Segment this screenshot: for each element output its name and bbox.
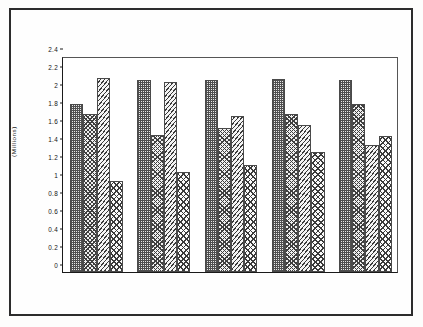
y-axis-tick: 1.2 [48,154,63,161]
plot-area: 00.20.40.60.811.21.41.61.822.22.4 [62,57,398,273]
bar [205,80,218,272]
bar [231,116,244,272]
bar-chart-figure: (Millions) 00.20.40.60.811.21.41.61.822.… [0,0,423,327]
y-axis-tick-label: 2.4 [48,46,60,53]
bar [218,128,231,272]
y-axis-tick: 2.4 [48,46,63,53]
y-axis-tick-mark [60,49,63,50]
bar [365,145,378,272]
y-axis-title: (Millions) [10,107,17,177]
y-axis-tick: 2.2 [48,64,63,71]
bar [177,172,190,272]
y-axis-tick: 1.4 [48,136,63,143]
y-axis-tick-mark [60,67,63,68]
y-axis-tick-label: 1.6 [48,118,60,125]
y-axis-tick-mark [60,229,63,230]
y-axis-tick-label: 0.8 [48,190,60,197]
y-axis-tick-mark [60,139,63,140]
y-axis-tick-mark [60,175,63,176]
bar [97,78,110,272]
y-axis-tick-mark [60,121,63,122]
bar [244,165,257,272]
bar [70,104,83,272]
bar [339,80,352,272]
y-axis-tick-label: 1.4 [48,136,60,143]
y-axis-tick-label: 1.8 [48,100,60,107]
bar [164,82,177,272]
y-axis-tick: 1 [54,172,63,179]
y-axis-tick-mark [60,157,63,158]
y-axis-tick: 0.4 [48,226,63,233]
y-axis-tick: 0.2 [48,244,63,251]
y-axis-tick: 2 [54,82,63,89]
page: (Millions) 00.20.40.60.811.21.41.61.822.… [0,0,423,327]
y-axis-tick: 1.8 [48,100,63,107]
y-axis-tick-label: 0.4 [48,226,60,233]
y-axis-tick-mark [60,265,63,266]
y-axis-tick: 0.6 [48,208,63,215]
bar [110,181,123,272]
y-axis-tick-mark [60,85,63,86]
bar [151,135,164,272]
bar [352,104,365,272]
y-axis-tick: 0.8 [48,190,63,197]
y-axis-tick: 1.6 [48,118,63,125]
bar [285,114,298,272]
y-axis-tick-mark [60,211,63,212]
bar [137,80,150,272]
plot-inner: 00.20.40.60.811.21.41.61.822.22.4 [63,58,397,272]
y-axis-tick-label: 0.2 [48,244,60,251]
y-axis-tick: 0 [54,262,63,269]
bar [298,125,311,272]
bar [272,79,285,272]
bar [311,152,324,272]
bar [83,114,96,272]
y-axis-tick-label: 0.6 [48,208,60,215]
y-axis-tick-label: 1.2 [48,154,60,161]
y-axis-tick-mark [60,193,63,194]
y-axis-tick-mark [60,103,63,104]
bar [379,136,392,272]
y-axis-tick-label: 2.2 [48,64,60,71]
y-axis-tick-mark [60,247,63,248]
